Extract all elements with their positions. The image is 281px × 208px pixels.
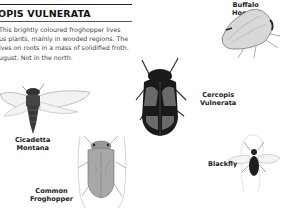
description-line: This brightly coloured froghopper lives <box>0 25 139 34</box>
cicadetta-montana-label: Cicadetta Montana <box>15 136 50 152</box>
header-rule-top <box>0 4 132 5</box>
description-text: This brightly coloured froghopper lives … <box>0 25 139 62</box>
page-title: OPIS VULNERATA <box>0 8 91 19</box>
label-line: Blackfly <box>208 160 237 168</box>
description-line: us plants, mainly in wooded regions. The <box>0 34 139 43</box>
label-line: Montana <box>15 144 50 152</box>
label-line: Froghopper <box>30 195 73 203</box>
label-line: Cercopis <box>200 91 236 99</box>
description-line: ugust. Not in the north. <box>0 53 139 62</box>
common-froghopper-label: Common Froghopper <box>30 187 73 203</box>
label-line: Cicadetta <box>15 136 50 144</box>
buffalo-hopper-illustration <box>214 2 281 60</box>
cercopis-vulnerata-label: Cercopis Vulnerata <box>200 91 236 107</box>
label-line: Vulnerata <box>200 99 236 107</box>
cicadetta-montana-illustration <box>0 80 92 136</box>
description-line: ives on roots in a mass of solidified fr… <box>0 43 139 52</box>
label-line: Common <box>30 187 73 195</box>
header-rule-bottom <box>0 21 132 22</box>
blackfly-label: Blackfly <box>208 160 237 168</box>
cercopis-vulnerata-illustration <box>132 56 192 138</box>
common-froghopper-illustration <box>74 134 130 208</box>
